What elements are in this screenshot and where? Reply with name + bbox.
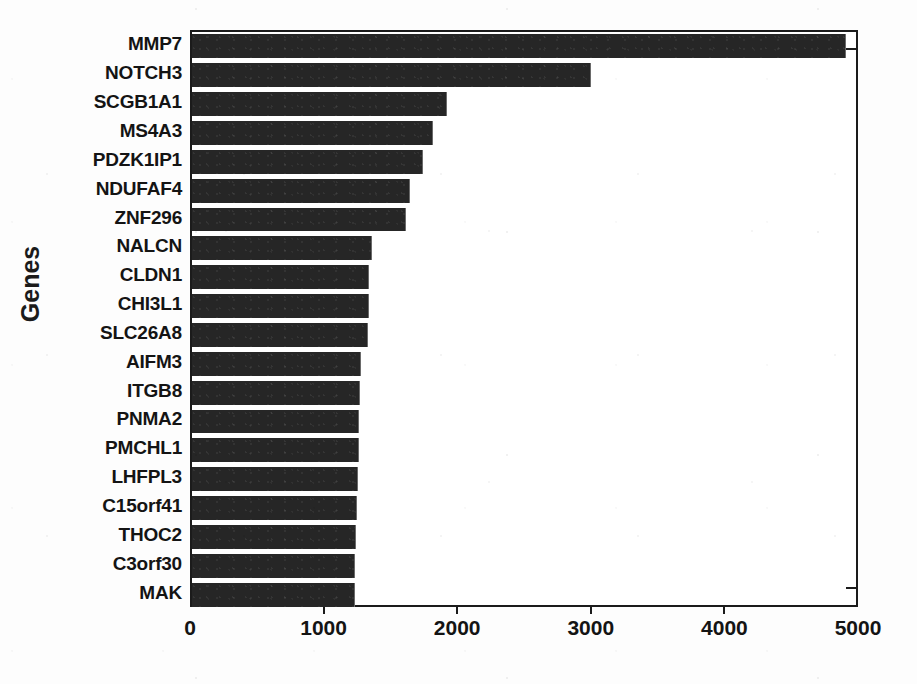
bar [192, 179, 410, 203]
category-label: MS4A3 [0, 119, 182, 143]
bar-row [192, 121, 856, 145]
plot-area [190, 30, 858, 607]
x-axis-tick-label: 2000 [397, 616, 517, 640]
category-label: ZNF296 [0, 206, 182, 230]
bar-row [192, 179, 856, 203]
category-label: C15orf41 [0, 494, 182, 518]
category-label: LHFPL3 [0, 465, 182, 489]
x-axis-tick [723, 607, 725, 614]
bar-row [192, 236, 856, 260]
bar-row [192, 554, 856, 578]
bar [192, 438, 359, 462]
bar-row [192, 438, 856, 462]
bar-row [192, 34, 856, 58]
bar-row [192, 92, 856, 116]
bar-row [192, 525, 856, 549]
bar [192, 92, 447, 116]
bar [192, 554, 355, 578]
category-label: ITGB8 [0, 379, 182, 403]
bar [192, 236, 372, 260]
bar-row [192, 294, 856, 318]
x-axis-tick [323, 607, 325, 614]
category-label: CHI3L1 [0, 292, 182, 316]
bar [192, 583, 355, 607]
bar-row [192, 410, 856, 434]
bar [192, 352, 361, 376]
bar [192, 496, 357, 520]
category-label: THOC2 [0, 523, 182, 547]
bar-row [192, 583, 856, 607]
right-spine-tick [846, 48, 858, 50]
category-label: C3orf30 [0, 552, 182, 576]
category-label: MMP7 [0, 32, 182, 56]
x-axis-tick-label: 5000 [798, 616, 917, 640]
bar-row [192, 467, 856, 491]
bar-row [192, 381, 856, 405]
right-spine-tick [846, 587, 858, 589]
category-label: NDUFAF4 [0, 177, 182, 201]
bar [192, 121, 433, 145]
bar [192, 34, 846, 58]
x-axis-tick [590, 607, 592, 614]
bar [192, 323, 368, 347]
bar-series [192, 32, 856, 605]
bar [192, 381, 360, 405]
bar-row [192, 265, 856, 289]
bar-row [192, 352, 856, 376]
bar-chart-figure: Genes MMP7NOTCH3SCGB1A1MS4A3PDZK1IP1NDUF… [0, 0, 917, 684]
bar-row [192, 496, 856, 520]
x-axis-tick-label: 3000 [531, 616, 651, 640]
bar-row [192, 63, 856, 87]
bar-row [192, 323, 856, 347]
bar [192, 467, 358, 491]
bar-row [192, 208, 856, 232]
bar [192, 294, 369, 318]
bar [192, 265, 369, 289]
bar [192, 150, 423, 174]
x-axis-tick-label: 4000 [664, 616, 784, 640]
category-label: AIFM3 [0, 350, 182, 374]
category-label: CLDN1 [0, 263, 182, 287]
category-label: SCGB1A1 [0, 90, 182, 114]
bar-row [192, 150, 856, 174]
category-label: NOTCH3 [0, 61, 182, 85]
x-axis-tick-label: 1000 [264, 616, 384, 640]
bar [192, 525, 356, 549]
bar [192, 410, 359, 434]
bar [192, 208, 406, 232]
category-label: SLC26A8 [0, 321, 182, 345]
category-label: PMCHL1 [0, 436, 182, 460]
category-label: MAK [0, 581, 182, 605]
category-label: PNMA2 [0, 407, 182, 431]
category-label: NALCN [0, 234, 182, 258]
x-axis-tick [456, 607, 458, 614]
category-label: PDZK1IP1 [0, 148, 182, 172]
x-axis-tick-label: 0 [130, 616, 250, 640]
bar [192, 63, 591, 87]
